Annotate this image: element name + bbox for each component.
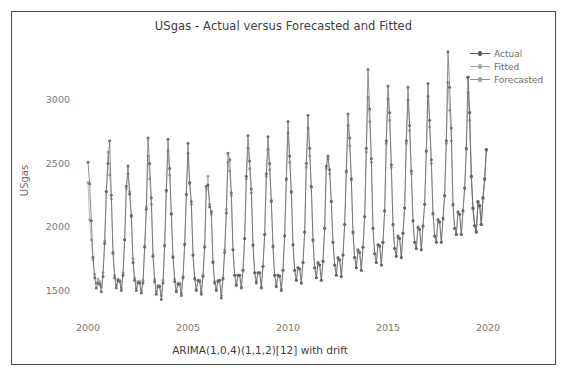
legend-swatch-icon — [470, 49, 490, 58]
legend-swatch-icon — [470, 62, 490, 71]
y-axis-tick-label: 2500 — [26, 158, 70, 169]
x-axis-ticks: 20002005201020152020 — [0, 322, 567, 336]
y-axis-tick-label: 3000 — [26, 94, 70, 105]
y-axis-tick-label: 1500 — [26, 285, 70, 296]
chart-legend: ActualFittedForecasted — [470, 48, 562, 87]
chart-title: USgas - Actual versus Forecasted and Fit… — [0, 19, 567, 33]
series-actual — [87, 50, 488, 301]
y-axis-tick-label: 2000 — [26, 221, 70, 232]
legend-item-actual[interactable]: Actual — [470, 48, 562, 59]
x-axis-tick-label: 2010 — [266, 322, 310, 333]
chart-screenshot: USgas - Actual versus Forecasted and Fit… — [0, 0, 567, 378]
x-axis-tick-label: 2000 — [66, 322, 110, 333]
legend-item-label: Actual — [494, 49, 522, 59]
legend-item-forecasted[interactable]: Forecasted — [470, 74, 562, 85]
legend-item-label: Forecasted — [494, 75, 543, 85]
x-axis-tick-label: 2015 — [366, 322, 410, 333]
legend-swatch-icon — [470, 75, 490, 84]
x-axis-tick-label: 2005 — [166, 322, 210, 333]
x-axis-label: ARIMA(1,0,4)(1,1,2)[12] with drift — [0, 344, 520, 356]
legend-item-label: Fitted — [494, 62, 519, 72]
legend-item-fitted[interactable]: Fitted — [470, 61, 562, 72]
x-axis-tick-label: 2020 — [466, 322, 510, 333]
